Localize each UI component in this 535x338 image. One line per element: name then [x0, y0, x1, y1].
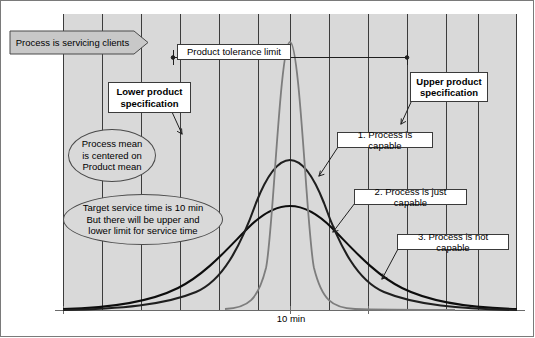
lower-spec-label-line1: Lower product [117, 86, 183, 98]
curve-1-label: 1. Process is capable [342, 129, 428, 152]
upper-spec-label-line1: Upper product [416, 76, 481, 88]
curve-2-label: 2. Process is just capable [359, 186, 462, 209]
process-mean-line2: is centered on [82, 150, 142, 162]
callout-lower-product-specification: Lower product specification [108, 82, 191, 113]
process-mean-line1: Process mean [82, 138, 143, 150]
target-time-line1: Target service time is 10 min [83, 202, 203, 214]
lower-spec-label-line2: specification [120, 98, 178, 110]
callout-curve-3: 3. Process is not capable [397, 234, 509, 250]
callout-process-mean: Process mean is centered on Product mean [68, 129, 156, 182]
banner-label: Process is servicing clients [10, 31, 148, 54]
callout-target-service-time: Target service time is 10 min But there … [63, 194, 223, 245]
curve-3-label: 3. Process is not capable [402, 231, 504, 254]
callout-curve-1: 1. Process is capable [337, 132, 433, 148]
callout-product-tolerance-limit: Product tolerance limit [177, 44, 291, 60]
callout-upper-product-specification: Upper product specification [410, 72, 488, 102]
upper-spec-label-line2: specification [420, 87, 478, 99]
x-tick-label-text: 10 min [277, 313, 306, 324]
product-tolerance-limit-label: Product tolerance limit [187, 46, 281, 58]
banner-process-servicing-clients: Process is servicing clients [10, 31, 148, 54]
x-axis-tick-label-10min: 10 min [255, 313, 327, 324]
target-time-line2: But there will be upper and [86, 214, 199, 226]
target-time-line3: lower limit for service time [88, 225, 197, 237]
process-mean-line3: Product mean [82, 161, 141, 173]
callout-curve-2: 2. Process is just capable [354, 189, 467, 205]
capability-chart: Process is servicing clients Product tol… [0, 0, 535, 338]
